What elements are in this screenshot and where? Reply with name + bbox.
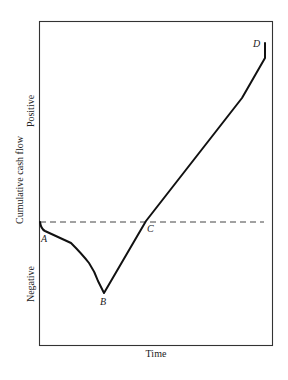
positive-region-label: Positive xyxy=(25,94,36,127)
plot-frame xyxy=(40,22,273,346)
x-axis-label: Time xyxy=(146,348,167,359)
point-label-b: B xyxy=(100,296,106,307)
cash-flow-chart: A B C D Time Cumulative cash flow Positi… xyxy=(0,0,288,380)
y-axis-label: Cumulative cash flow xyxy=(14,135,25,224)
cumulative-cash-flow-curve xyxy=(40,43,265,293)
point-label-d: D xyxy=(252,38,261,49)
point-label-c: C xyxy=(147,223,154,234)
negative-region-label: Negative xyxy=(25,265,36,302)
point-label-a: A xyxy=(40,233,48,244)
